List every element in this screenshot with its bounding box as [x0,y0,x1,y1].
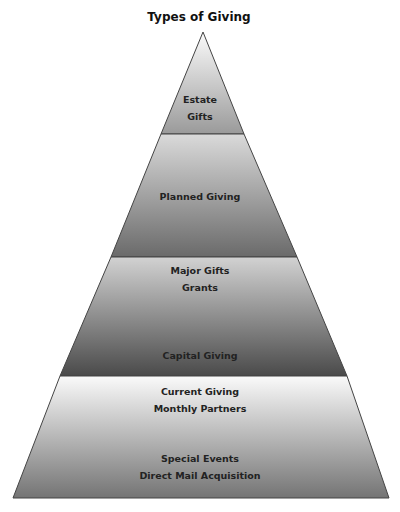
label-estate: Estate [0,94,400,105]
label-current-giving: Current Giving [0,386,400,397]
label-monthly-partners: Monthly Partners [0,403,400,414]
label-special-events: Special Events [0,453,400,464]
label-planned-giving: Planned Giving [0,191,400,202]
label-major-gifts: Major Gifts [0,265,400,276]
label-direct-mail: Direct Mail Acquisition [0,470,400,481]
label-grants: Grants [0,282,400,293]
pyramid [0,0,400,512]
label-gifts: Gifts [0,111,400,122]
label-capital-giving: Capital Giving [0,350,400,361]
